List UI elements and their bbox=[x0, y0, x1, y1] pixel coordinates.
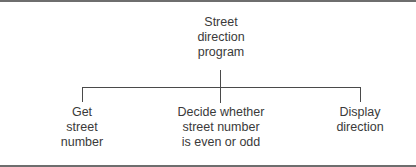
child-2-line-2: street number bbox=[178, 120, 265, 135]
top-border bbox=[0, 0, 416, 2]
child-1-line-3: number bbox=[61, 135, 103, 150]
root-node-line-2: direction bbox=[197, 30, 244, 45]
right-child-connector bbox=[360, 87, 361, 102]
bottom-border bbox=[0, 165, 416, 167]
child-2-line-1: Decide whether bbox=[178, 105, 265, 120]
child-1-line-2: street bbox=[61, 120, 103, 135]
child-node-decide-even-odd: Decide whether street number is even or … bbox=[178, 105, 265, 150]
horizontal-branch-line bbox=[82, 87, 361, 88]
child-1-line-1: Get bbox=[61, 105, 103, 120]
child-node-get-street-number: Get street number bbox=[61, 105, 103, 150]
left-child-connector bbox=[82, 87, 83, 102]
child-2-line-3: is even or odd bbox=[178, 135, 265, 150]
root-node-line-3: program bbox=[197, 45, 244, 60]
child-3-line-2: direction bbox=[336, 120, 383, 135]
child-3-line-1: Display bbox=[336, 105, 383, 120]
child-node-display-direction: Display direction bbox=[336, 105, 383, 135]
root-node-street-direction-program: Street direction program bbox=[197, 15, 244, 60]
root-node-line-1: Street bbox=[197, 15, 244, 30]
